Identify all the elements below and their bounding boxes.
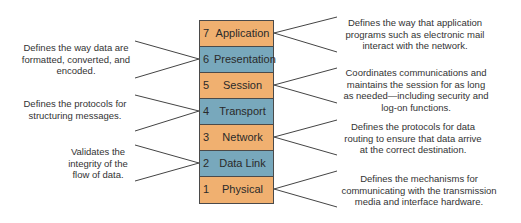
layer-number: 2	[203, 151, 209, 176]
layer-number: 1	[203, 177, 209, 202]
layer-name: Physical	[214, 177, 271, 202]
layer-presentation: 6 Presentation	[200, 47, 273, 73]
desc-application: Defines the way that application program…	[340, 17, 490, 52]
layer-number: 3	[203, 125, 209, 150]
desc-presentation: Defines the way data are formatted, conv…	[20, 42, 132, 77]
desc-network: Defines the protocols for data routing t…	[343, 121, 483, 156]
layer-name: Application	[214, 21, 271, 46]
desc-session: Coordinates communications and maintains…	[342, 67, 490, 113]
layer-number: 5	[203, 73, 209, 98]
layer-network: 3 Network	[200, 125, 273, 151]
layer-name: Network	[214, 125, 271, 150]
osi-layer-stack: 7 Application 6 Presentation 5 Session 4…	[199, 20, 274, 204]
layer-number: 6	[203, 47, 209, 72]
layer-name: Session	[214, 73, 271, 98]
layer-application: 7 Application	[200, 21, 273, 47]
desc-transport: Defines the protocols for structuring me…	[14, 98, 136, 121]
layer-session: 5 Session	[200, 73, 273, 99]
desc-physical: Defines the mechanisms for communicating…	[340, 173, 498, 208]
layer-name: Data Link	[214, 151, 271, 176]
layer-number: 4	[203, 99, 209, 124]
layer-physical: 1 Physical	[200, 177, 273, 203]
layer-name: Transport	[214, 99, 271, 124]
layer-transport: 4 Transport	[200, 99, 273, 125]
layer-number: 7	[203, 21, 209, 46]
layer-data-link: 2 Data Link	[200, 151, 273, 177]
desc-data-link: Validates the integrity of the flow of d…	[62, 146, 134, 181]
layer-name: Presentation	[214, 47, 271, 72]
